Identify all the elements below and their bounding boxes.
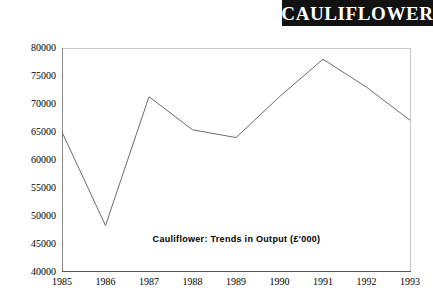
x-axis-tick-label: 1990	[270, 277, 290, 287]
x-axis-tick-label: 1986	[96, 277, 116, 287]
y-axis-tick-label: 75000	[31, 71, 56, 81]
y-axis-tick-label: 60000	[31, 155, 56, 165]
x-axis-tick-label: 1991	[313, 277, 333, 287]
x-axis-tick-label: 1992	[357, 277, 377, 287]
y-axis-tick-label: 50000	[31, 211, 56, 221]
y-axis-tick-label: 45000	[31, 239, 56, 249]
x-axis-tick-label: 1989	[226, 277, 246, 287]
plot-area: Cauliflower: Trends in Output (£'000)	[62, 48, 411, 272]
line-chart: 8000075000700006500060000550005000045000…	[0, 0, 433, 294]
x-axis-tick-label: 1987	[139, 277, 159, 287]
y-axis-tick-label: 55000	[31, 183, 56, 193]
chart-caption: Cauliflower: Trends in Output (£'000)	[62, 234, 411, 244]
y-axis-labels: 8000075000700006500060000550005000045000…	[0, 0, 56, 294]
x-axis-tick-label: 1993	[400, 277, 420, 287]
y-axis-tick-label: 70000	[31, 99, 56, 109]
x-axis-tick-label: 1988	[183, 277, 203, 287]
y-axis-tick-label: 80000	[31, 43, 56, 53]
y-axis-tick-label: 65000	[31, 127, 56, 137]
data-series-line	[62, 59, 410, 225]
x-axis-labels: 198519861987198819891990199119921993	[0, 277, 433, 291]
x-axis-tick-label: 1985	[52, 277, 72, 287]
